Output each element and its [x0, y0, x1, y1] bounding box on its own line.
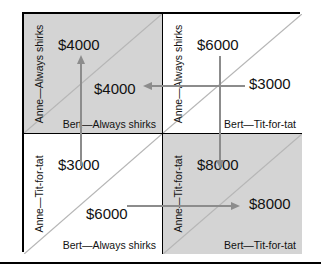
payoff-anne-bottom-right: $8000	[197, 156, 239, 173]
col-label-bert-tit-for-tat-bottom: Bert—Tit-for-tat	[224, 239, 296, 251]
footer-rule	[0, 262, 321, 264]
payoff-anne-top-left: $4000	[58, 36, 100, 53]
col-label-bert-always-shirks: Bert—Always shirks	[63, 118, 156, 130]
payoff-bert-bottom-left: $6000	[86, 205, 128, 222]
payoff-bert-top-left: $4000	[94, 80, 136, 97]
matrix-cell-bottom-left: Anne—Tit-for-tat Bert—Always shirks $300…	[24, 134, 163, 254]
row-label-anne-always-shirks: Anne—Always shirks	[33, 15, 45, 133]
row-label-anne-always-shirks-right: Anne—Always shirks	[172, 15, 184, 133]
payoff-bert-bottom-right: $8000	[249, 195, 291, 212]
figure-canvas: Anne—Always shirks Bert—Always shirks $4…	[0, 0, 321, 270]
payoff-matrix: Anne—Always shirks Bert—Always shirks $4…	[22, 12, 300, 252]
payoff-anne-top-right: $6000	[197, 36, 239, 53]
row-label-anne-tit-for-tat-right: Anne—Tit-for-tat	[172, 135, 184, 253]
col-label-bert-always-shirks-bottom: Bert—Always shirks	[63, 239, 156, 251]
matrix-cell-top-right: Anne—Always shirks Bert—Tit-for-tat $600…	[163, 14, 302, 134]
payoff-anne-bottom-left: $3000	[58, 156, 100, 173]
row-label-anne-tit-for-tat: Anne—Tit-for-tat	[33, 135, 45, 253]
col-label-bert-tit-for-tat: Bert—Tit-for-tat	[224, 118, 296, 130]
matrix-cell-top-left: Anne—Always shirks Bert—Always shirks $4…	[24, 14, 163, 134]
payoff-bert-top-right: $3000	[249, 75, 291, 92]
matrix-cell-bottom-right: Anne—Tit-for-tat Bert—Tit-for-tat $8000 …	[163, 134, 302, 254]
